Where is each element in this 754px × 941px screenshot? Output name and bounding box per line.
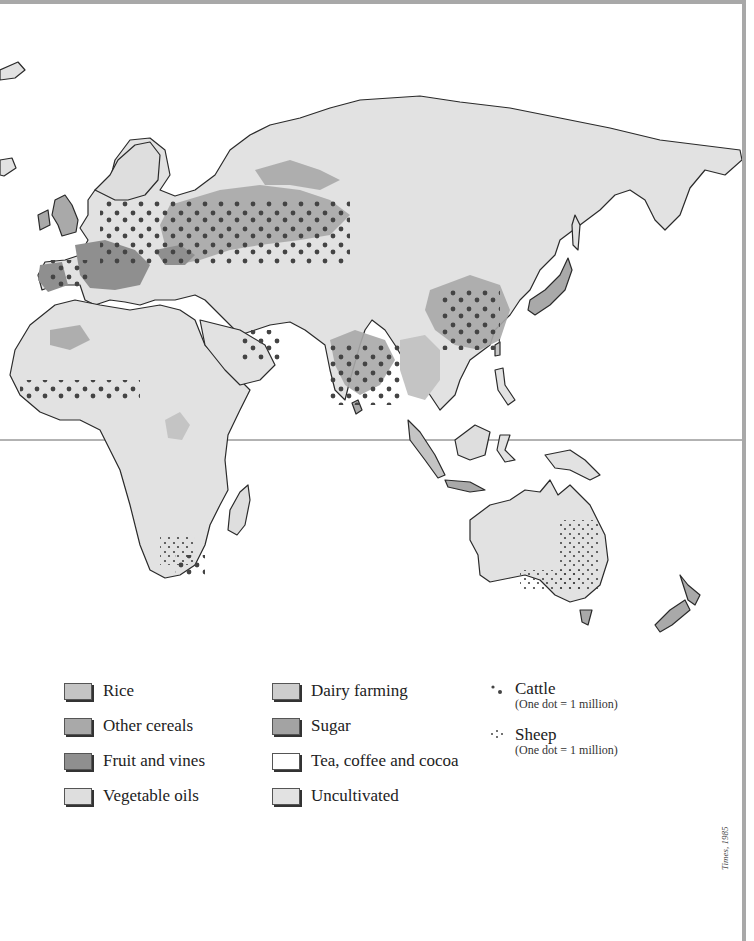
landmass-iceland [0,62,25,80]
legend-item-fruit-and-vines: Fruit and vines [64,751,205,771]
legend-item-other-cereals: Other cereals [64,716,193,736]
cattle-dot-icon [490,683,504,697]
legend-label-vegetable-oils: Vegetable oils [103,786,199,806]
legend-label-rice: Rice [103,681,134,701]
landmass-new-zealand-north [680,575,700,605]
legend-label-other-cereals: Other cereals [103,716,193,736]
legend-note-cattle: (One dot = 1 million) [515,698,618,711]
world-map [0,0,742,660]
source-credit: Times, 1985 [720,826,730,870]
landmass-sumatra [408,420,445,478]
legend-label-sheep: Sheep [515,726,618,744]
legend-item-dairy-farming: Dairy farming [272,681,408,701]
legend-label-sugar: Sugar [311,716,351,736]
sheep-dot-icon [490,729,504,739]
legend-item-tea-coffee-cocoa: Tea, coffee and cocoa [272,751,459,771]
swatch-fruit-and-vines [64,753,92,770]
landmass-philippines [495,368,515,405]
landmass-madagascar [228,485,250,535]
legend-item-vegetable-oils: Vegetable oils [64,786,199,806]
landmass-new-guinea [545,450,600,480]
swatch-other-cereals [64,718,92,735]
landmass-java [445,480,485,492]
swatch-tea-coffee-cocoa [272,753,300,770]
legend-label-cattle: Cattle [515,680,618,698]
swatch-uncultivated [272,788,300,805]
frame-right-border [742,0,746,941]
legend-label-uncultivated: Uncultivated [311,786,399,806]
landmass-britain [52,195,78,236]
legend-item-rice: Rice [64,681,134,701]
legend-note-sheep: (One dot = 1 million) [515,744,618,757]
landmass-borneo [455,425,490,460]
landmass-new-zealand-south [655,600,690,632]
legend-label-dairy-farming: Dairy farming [311,681,408,701]
legend-item-cattle: Cattle (One dot = 1 million) [515,680,618,711]
legend-label-tea-coffee-cocoa: Tea, coffee and cocoa [311,751,459,771]
swatch-vegetable-oils [64,788,92,805]
landmass-greenland-edge [0,158,16,176]
landmass-tasmania [580,610,592,625]
legend-item-sugar: Sugar [272,716,351,736]
swatch-rice [64,683,92,700]
swatch-sugar [272,718,300,735]
swatch-dairy-farming [272,683,300,700]
landmass-ireland [38,210,50,230]
legend-label-fruit-and-vines: Fruit and vines [103,751,205,771]
legend-item-uncultivated: Uncultivated [272,786,399,806]
legend-item-sheep: Sheep (One dot = 1 million) [515,726,618,757]
landmass-sulawesi [497,435,515,462]
